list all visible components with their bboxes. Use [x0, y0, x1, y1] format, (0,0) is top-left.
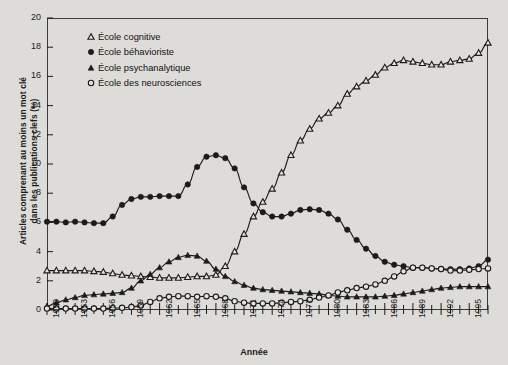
y-tick-label: 6	[11, 216, 41, 226]
y-tick-label: 8	[11, 187, 41, 197]
x-axis-label: Année	[0, 347, 508, 357]
x-tick-label: 1953	[79, 299, 89, 318]
x-tick-label: 1962	[164, 299, 174, 318]
legend-label: École béhavioriste	[98, 47, 174, 57]
y-tick-label: 20	[11, 12, 41, 22]
y-tick-label: 2	[11, 275, 41, 285]
x-tick-label: 1959	[135, 299, 145, 318]
chart-root: Articles comprenant au moins un mot clé …	[0, 0, 508, 365]
y-tick-label: 0	[11, 304, 41, 314]
x-tick-label: 1986	[389, 299, 399, 318]
legend-item-2: École psychanalytique	[84, 60, 201, 76]
x-tick-label: 1980	[332, 299, 342, 318]
legend-item-0: École cognitive	[84, 29, 201, 45]
y-tick-label: 14	[11, 100, 41, 110]
series-1	[44, 153, 490, 272]
x-tick-label: 1968	[220, 299, 230, 318]
x-tick-label: 1992	[445, 299, 455, 318]
x-tick-label: 1989	[417, 299, 427, 318]
filled-triangle-icon	[84, 62, 98, 74]
y-tick-label: 16	[11, 70, 41, 80]
legend-label: École psychanalytique	[98, 63, 191, 73]
x-tick-label: 1965	[192, 299, 202, 318]
legend-label: École des neurosciences	[98, 78, 201, 88]
chart-legend: École cognitiveÉcole béhavioristeÉcole p…	[84, 29, 201, 91]
x-tick-label: 1995	[473, 299, 483, 318]
legend-item-3: École des neurosciences	[84, 76, 201, 92]
x-tick-label: 1956	[107, 299, 117, 318]
x-tick-label: 1971	[248, 299, 258, 318]
filled-circle-icon	[84, 46, 98, 58]
legend-item-1: École béhavioriste	[84, 45, 201, 61]
y-tick-label: 10	[11, 158, 41, 168]
x-tick-label: 1977	[304, 299, 314, 318]
legend-label: École cognitive	[98, 32, 161, 42]
y-tick-label: 4	[11, 246, 41, 256]
x-tick-label: 1983	[361, 299, 371, 318]
x-tick-label: 1950	[51, 299, 61, 318]
x-tick-label: 1974	[276, 299, 286, 318]
open-triangle-icon	[84, 31, 98, 43]
y-tick-label: 12	[11, 129, 41, 139]
open-circle-icon	[84, 77, 98, 89]
y-tick-label: 18	[11, 41, 41, 51]
